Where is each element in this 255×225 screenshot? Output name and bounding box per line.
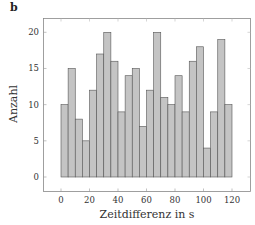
histogram-bar [161, 97, 168, 177]
histogram-bar [90, 90, 97, 177]
y-tick-label: 5 [34, 136, 39, 146]
histogram-bar [104, 32, 111, 177]
histogram-bar [82, 141, 89, 177]
x-axis-title: Zeitdifferenz in s [100, 208, 195, 221]
histogram-bar [175, 76, 182, 177]
x-tick-label: 40 [113, 195, 124, 205]
histogram-bar [97, 54, 104, 177]
histogram-bar [182, 112, 189, 177]
y-tick-label: 15 [28, 63, 39, 73]
histogram-bar [139, 126, 146, 177]
histogram-bar [189, 61, 196, 177]
y-tick-label: 10 [28, 100, 39, 110]
histogram-bar [132, 68, 139, 177]
x-tick-label: 80 [170, 195, 181, 205]
x-tick-label: 120 [224, 195, 240, 205]
histogram-bar [168, 105, 175, 177]
histogram-bar [225, 105, 232, 177]
histogram-bar [125, 76, 132, 177]
x-tick-label: 60 [141, 195, 152, 205]
x-tick-label: 0 [58, 195, 63, 205]
y-axis-title: Anzahl [7, 85, 20, 124]
histogram-bar [147, 90, 154, 177]
y-tick-label: 20 [28, 27, 39, 37]
histogram-bar [211, 112, 218, 177]
x-tick-label: 20 [84, 195, 95, 205]
histogram-chart: 05101520 020406080100120 Zeitdifferenz i… [0, 0, 255, 225]
x-tick-label: 100 [195, 195, 211, 205]
histogram-bar [118, 112, 125, 177]
histogram-bar [111, 61, 118, 177]
histogram-bar [61, 105, 68, 177]
histogram-bar [75, 119, 82, 177]
histogram-bar [154, 32, 161, 177]
histogram-bar [196, 47, 203, 177]
bars-group [61, 32, 232, 177]
histogram-bar [218, 40, 225, 177]
histogram-bar [68, 68, 75, 177]
y-tick-label: 0 [34, 172, 39, 182]
histogram-bar [204, 148, 211, 177]
